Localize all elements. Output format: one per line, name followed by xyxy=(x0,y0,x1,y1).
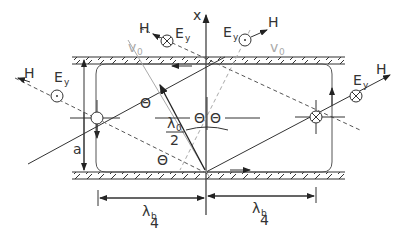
svg-text:E: E xyxy=(54,69,63,85)
svg-text:y: y xyxy=(363,80,369,90)
svg-text:Θ: Θ xyxy=(157,152,168,168)
e-left-outer: E y H xyxy=(18,65,70,102)
e-reflected-top: E y H v 0 xyxy=(128,20,191,57)
svg-text:y: y xyxy=(64,77,70,87)
svg-text:Θ: Θ xyxy=(210,110,221,126)
svg-text:4: 4 xyxy=(150,215,159,231)
theta-label: Θ xyxy=(140,95,151,111)
svg-text:Θ: Θ xyxy=(194,110,205,126)
svg-text:λ: λ xyxy=(167,115,175,131)
node-right xyxy=(295,100,345,134)
svg-text:0: 0 xyxy=(137,47,143,57)
waveguide-diagram: x a E y H xyxy=(0,0,411,233)
a-label: a xyxy=(73,141,82,157)
svg-text:v: v xyxy=(128,39,136,55)
lambda-b-dimension: λ b 4 λ b 4 xyxy=(98,187,316,231)
svg-text:0: 0 xyxy=(279,47,285,57)
svg-text:4: 4 xyxy=(260,212,269,228)
svg-text:H: H xyxy=(268,14,279,30)
svg-text:E: E xyxy=(223,24,232,40)
svg-text:v: v xyxy=(270,39,278,55)
svg-text:H: H xyxy=(139,20,150,36)
svg-text:E: E xyxy=(175,25,184,41)
svg-text:2: 2 xyxy=(170,132,179,148)
svg-text:E: E xyxy=(353,72,362,88)
svg-text:H: H xyxy=(24,65,35,81)
x-axis-label: x xyxy=(193,7,201,23)
svg-text:y: y xyxy=(233,32,239,42)
node-left xyxy=(70,100,120,136)
svg-text:y: y xyxy=(185,33,191,43)
e-right-outer: E y H xyxy=(350,61,387,102)
top-wall xyxy=(72,57,345,64)
svg-text:H: H xyxy=(376,61,387,77)
height-dimension: a xyxy=(73,60,84,170)
